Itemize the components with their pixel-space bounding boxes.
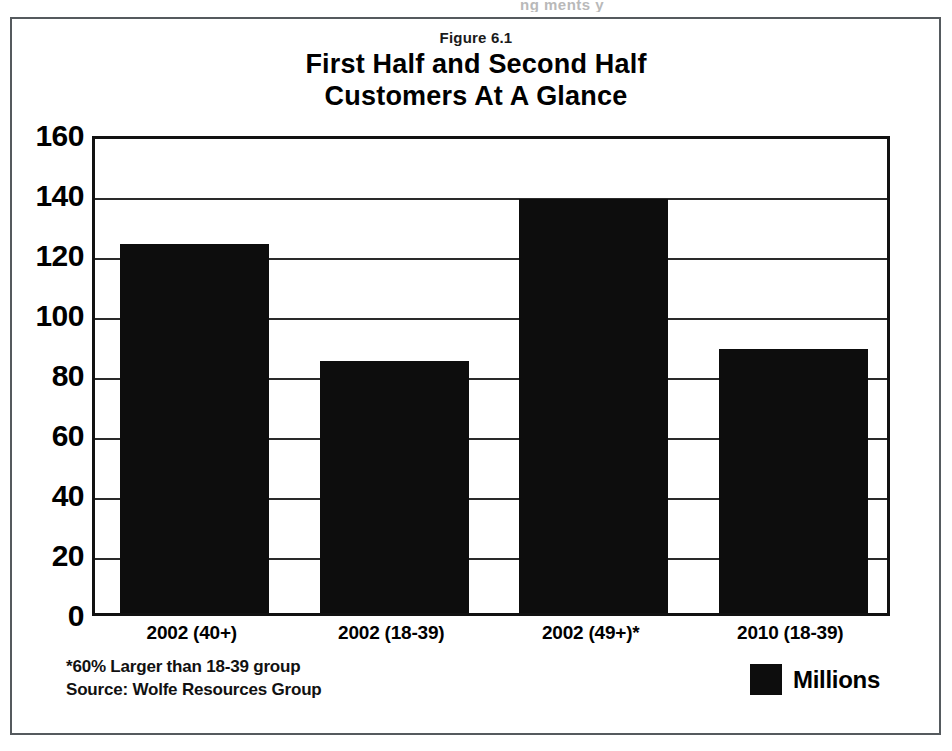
y-tick-label: 80 [6, 361, 84, 391]
plot-area [92, 136, 890, 616]
x-tick-label: 2002 (18-39) [292, 622, 492, 644]
legend-swatch-millions [750, 664, 782, 695]
y-tick-label: 140 [6, 181, 84, 211]
chart-title-line-2: Customers At A Glance [0, 80, 952, 112]
footnote-asterisk: *60% Larger than 18-39 group [66, 655, 322, 678]
x-axis-tick-labels: 2002 (40+)2002 (18-39)2002 (49+)*2010 (1… [92, 622, 890, 650]
y-tick-label: 20 [6, 541, 84, 571]
bar [719, 349, 868, 613]
legend-label-millions: Millions [793, 666, 880, 694]
x-tick-label: 2002 (40+) [92, 622, 292, 644]
plot-inner [95, 139, 887, 613]
y-tick-label: 40 [6, 481, 84, 511]
chart-title-line-1: First Half and Second Half [0, 48, 952, 80]
scan-artifact-text: ng ments y [520, 0, 860, 12]
y-tick-label: 100 [6, 301, 84, 331]
y-tick-label: 160 [6, 121, 84, 151]
y-tick-label: 60 [6, 421, 84, 451]
footnote-source: Source: Wolfe Resources Group [66, 678, 322, 701]
figure-label: Figure 6.1 [0, 29, 952, 46]
y-tick-label: 120 [6, 241, 84, 271]
bar [519, 199, 668, 613]
chart-legend: Millions [750, 664, 880, 695]
bar [320, 361, 469, 613]
y-tick-label: 0 [6, 601, 84, 631]
chart-title: First Half and Second Half Customers At … [0, 48, 952, 112]
chart-footnotes: *60% Larger than 18-39 group Source: Wol… [66, 655, 322, 701]
y-axis-tick-labels: 020406080100120140160 [0, 136, 84, 616]
bars [95, 139, 887, 613]
x-tick-label: 2002 (49+)* [491, 622, 691, 644]
bar [120, 244, 269, 613]
chart-screenshot: ng ments y Figure 6.1 First Half and Sec… [0, 0, 952, 751]
x-tick-label: 2010 (18-39) [691, 622, 891, 644]
